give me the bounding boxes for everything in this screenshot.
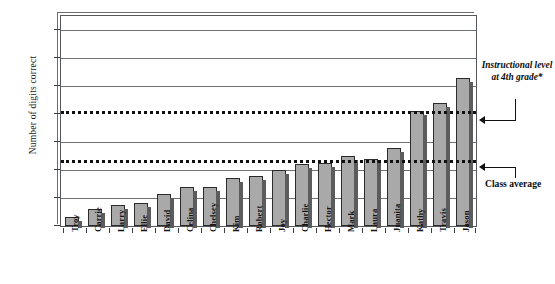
gridline-70 [61,30,476,31]
x-label-robert: Robert [254,206,264,232]
x-label-hector: Hector [323,206,333,232]
x-tick-mark [224,228,225,233]
x-tick-mark [86,228,87,233]
gridline-50 [61,86,476,87]
x-tick-mark [431,228,432,233]
chart-figure: Number of digits correct 70 60 50 40 30 … [0,0,555,284]
annotation-instructional-level: Instructional level at 4th grade* [481,60,553,83]
x-label-charlie: Charlie [300,204,310,232]
x-tick-mark [385,228,386,233]
x-tick-mark [63,228,64,233]
gridline-60 [61,58,476,59]
bar-joy [272,170,286,226]
x-tick-mark [178,228,179,233]
plot-area [60,15,477,227]
class-average-arrow-stem [515,167,516,178]
instructional-arrow-head-icon [479,116,485,124]
x-tick-mark [454,228,455,233]
x-tick-mark [109,228,110,233]
instructional-arrow-line [484,120,516,121]
x-tick-mark [339,228,340,233]
x-tick-mark [270,228,271,233]
x-tick-mark [293,228,294,233]
bar-jason [456,78,470,226]
x-label-troy: Troy [70,214,80,232]
x-tick-mark [316,228,317,233]
reference-line-class-average [61,160,476,163]
x-tick-mark [247,228,248,233]
x-label-jason: Jason [461,210,471,232]
x-label-joy: Joy [277,219,287,232]
x-label-kim: Kim [231,215,241,232]
class-average-arrow-head-icon [479,163,485,171]
x-label-laura: Laura [369,209,379,232]
x-tick-mark [475,228,476,233]
instructional-arrow-stem [515,99,516,121]
x-label-juanita: Juanita [392,204,402,232]
x-tick-mark [155,228,156,233]
x-tick-mark [132,228,133,233]
x-label-ellie: Ellie [139,215,149,232]
x-label-larry: Larry [116,210,126,232]
x-tick-mark [408,228,409,233]
class-average-arrow-line [484,167,516,168]
x-tick-mark [201,228,202,233]
x-label-carrie: Carrie [93,207,103,232]
x-label-david: David [162,210,172,232]
x-label-kathy: Kathy [415,209,425,232]
x-tick-mark [362,228,363,233]
x-label-celina: Celina [185,208,195,232]
y-axis-title: Number of digits correct [28,10,38,200]
x-label-travis: Travis [438,208,448,232]
x-label-mark: Mark [346,211,356,232]
x-label-chelsey: Chelsey [208,203,218,232]
reference-line-instructional [61,111,476,114]
annotation-class-average: Class average [485,178,541,189]
